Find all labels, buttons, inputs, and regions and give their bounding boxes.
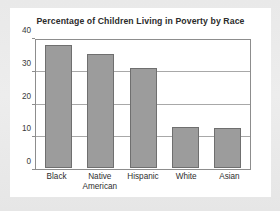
x-axis-label-line: Hispanic xyxy=(121,172,164,182)
y-tick-mark-30 xyxy=(32,71,35,72)
y-tick-label-40: 40 xyxy=(22,26,31,35)
y-tick-mark-40 xyxy=(32,38,35,39)
x-axis-label-line: American xyxy=(78,182,121,192)
chart-card: Percentage of Children Living in Poverty… xyxy=(10,8,271,197)
bar-slot xyxy=(37,41,79,168)
y-tick-mark-0 xyxy=(32,169,35,170)
y-tick-mark-20 xyxy=(32,104,35,105)
page-background: Percentage of Children Living in Poverty… xyxy=(0,0,280,211)
bar-native-american[interactable] xyxy=(87,54,114,168)
y-tick-label-10: 10 xyxy=(22,124,31,133)
bar-slot xyxy=(207,41,249,168)
bar-slot xyxy=(164,41,206,168)
bar-slot xyxy=(79,41,121,168)
chart-title: Percentage of Children Living in Poverty… xyxy=(10,16,271,26)
x-axis-label-white: White xyxy=(165,172,208,192)
x-axis-label-asian: Asian xyxy=(208,172,251,192)
bar-white[interactable] xyxy=(172,127,199,168)
x-axis-label-black: Black xyxy=(35,172,78,192)
x-axis-label-line: White xyxy=(165,172,208,182)
plot-wrapper: 010203040 xyxy=(35,39,251,170)
y-tick-label-30: 30 xyxy=(22,58,31,67)
x-axis-labels: BlackNativeAmericanHispanicWhiteAsian xyxy=(35,172,251,192)
bar-asian[interactable] xyxy=(214,128,241,168)
x-axis-label-line: Asian xyxy=(208,172,251,182)
plot-area xyxy=(35,39,251,170)
bar-hispanic[interactable] xyxy=(130,68,157,168)
x-axis-label-line: Black xyxy=(35,172,78,182)
x-axis-label-line: Native xyxy=(78,172,121,182)
bar-black[interactable] xyxy=(45,45,72,168)
bar-series xyxy=(37,41,249,168)
y-tick-label-20: 20 xyxy=(22,91,31,100)
bar-slot xyxy=(122,41,164,168)
x-axis-label-hispanic: Hispanic xyxy=(121,172,164,192)
x-axis-label-native-american: NativeAmerican xyxy=(78,172,121,192)
y-tick-label-0: 0 xyxy=(26,157,31,166)
y-tick-mark-10 xyxy=(32,136,35,137)
